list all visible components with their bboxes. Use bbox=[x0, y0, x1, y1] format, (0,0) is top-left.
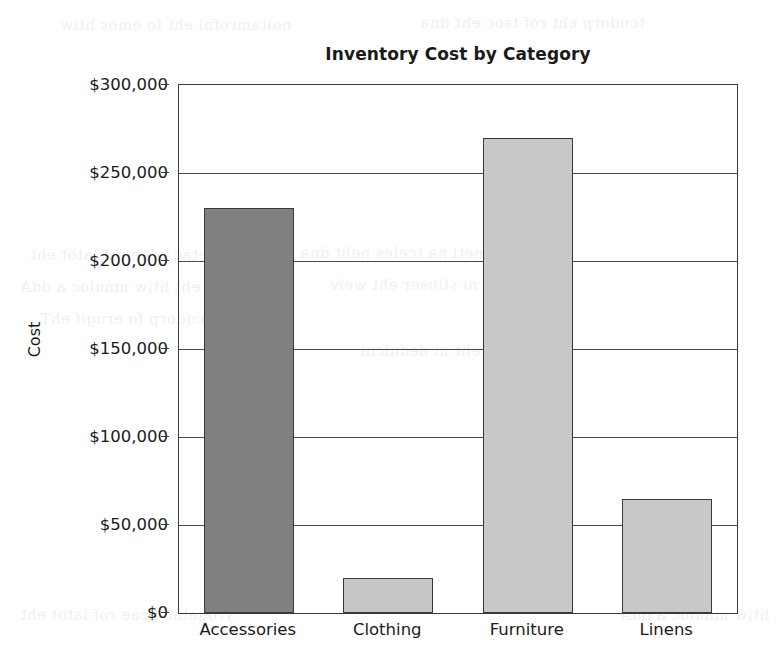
gridline bbox=[179, 173, 737, 174]
y-axis-tickmark bbox=[161, 524, 169, 525]
y-axis-tick-label: $0 bbox=[8, 603, 168, 622]
x-axis-tick-label: Linens bbox=[597, 620, 737, 639]
bar-furniture[interactable] bbox=[483, 138, 573, 613]
y-axis-tick-label: $50,000 bbox=[8, 515, 168, 534]
bar-chart: Inventory Cost by Category Cost $0$50,00… bbox=[0, 0, 776, 670]
y-axis-tickmark bbox=[161, 436, 169, 437]
y-axis-tickmark bbox=[161, 348, 169, 349]
y-axis-tickmark bbox=[161, 612, 169, 613]
x-axis-tick-label: Clothing bbox=[318, 620, 458, 639]
plot-area bbox=[178, 84, 738, 614]
bar-clothing[interactable] bbox=[343, 578, 433, 613]
y-axis-tick-label: $150,000 bbox=[8, 339, 168, 358]
y-axis-tick-label: $250,000 bbox=[8, 163, 168, 182]
y-axis-tickmark bbox=[161, 260, 169, 261]
y-axis-tick-label: $100,000 bbox=[8, 427, 168, 446]
y-axis-tick-label: $200,000 bbox=[8, 251, 168, 270]
y-axis-tickmark bbox=[161, 84, 169, 85]
bar-accessories[interactable] bbox=[204, 208, 294, 613]
chart-title: Inventory Cost by Category bbox=[178, 44, 738, 64]
y-axis: $0$50,000$100,000$150,000$200,000$250,00… bbox=[0, 84, 168, 614]
y-axis-tickmark bbox=[161, 172, 169, 173]
x-axis-tick-label: Accessories bbox=[178, 620, 318, 639]
x-axis-tick-label: Furniture bbox=[457, 620, 597, 639]
y-axis-tick-label: $300,000 bbox=[8, 75, 168, 94]
bar-linens[interactable] bbox=[622, 499, 712, 613]
